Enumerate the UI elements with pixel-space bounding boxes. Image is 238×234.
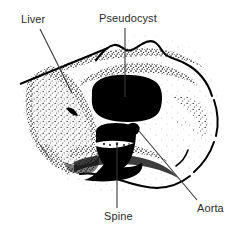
aorta-vessel: [126, 123, 139, 135]
ct-scan-drawing: [0, 0, 238, 234]
label-aorta: Aorta: [197, 202, 224, 214]
ct-illustration-figure: Liver Pseudocyst Spine Aorta: [0, 0, 238, 234]
label-spine: Spine: [104, 210, 133, 222]
label-liver: Liver: [21, 13, 45, 25]
label-pseudocyst: Pseudocyst: [99, 12, 157, 24]
pseudocyst-mass: [92, 75, 162, 122]
